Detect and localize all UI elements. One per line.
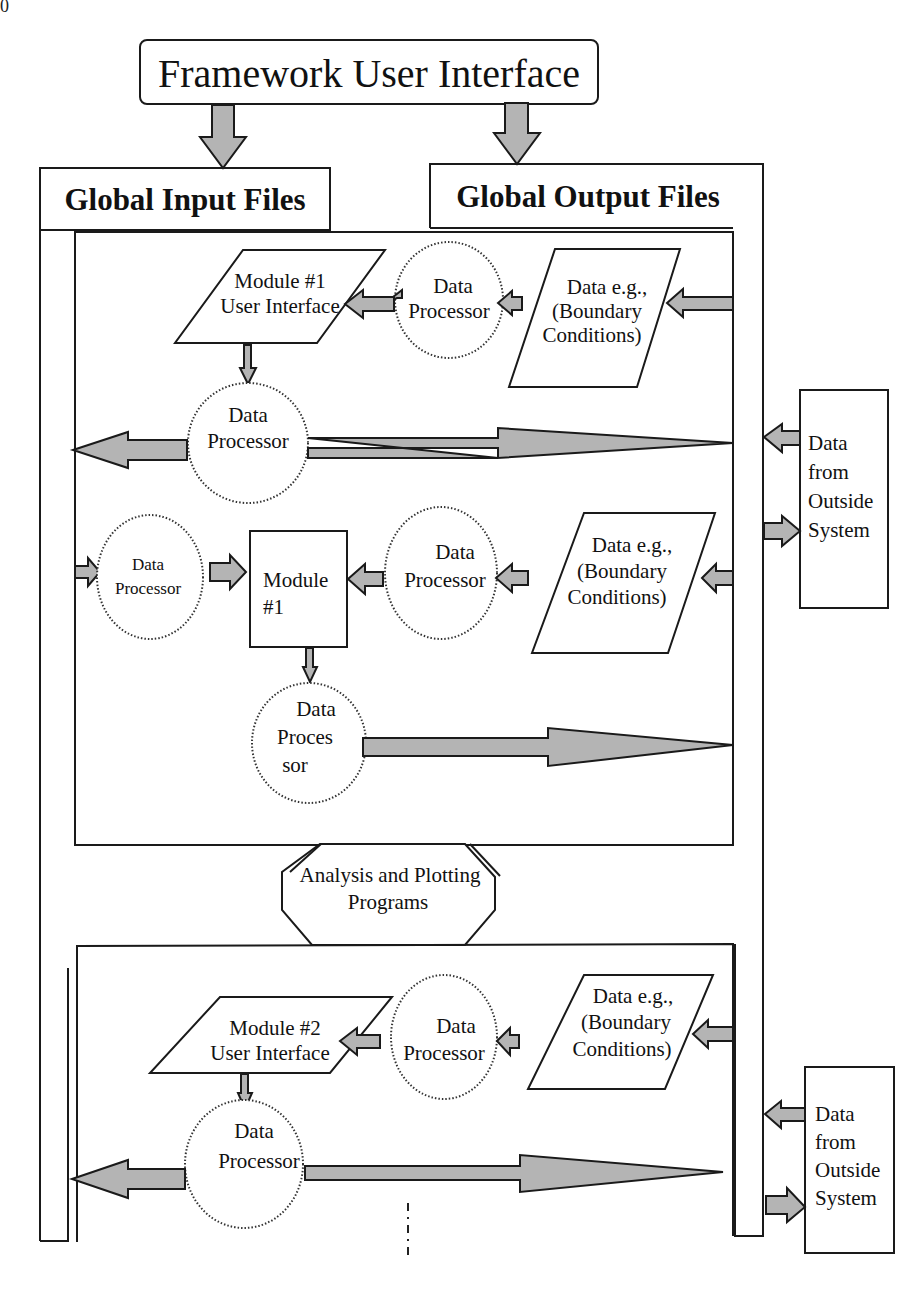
global-output-files-label: Global Output Files bbox=[456, 179, 720, 214]
svg-text:System: System bbox=[808, 518, 870, 542]
svg-text:Processor: Processor bbox=[115, 579, 181, 598]
svg-text:Data: Data bbox=[433, 274, 473, 298]
module1-data-processor-bottom: Data Proces sor bbox=[252, 683, 366, 803]
svg-text:Processor: Processor bbox=[404, 568, 486, 592]
arrow-down-icon bbox=[240, 345, 256, 384]
arrow-right-icon bbox=[764, 516, 800, 546]
arrow-left-icon bbox=[72, 1160, 185, 1198]
svg-text:Processor: Processor bbox=[207, 429, 289, 453]
arrow-left-icon bbox=[73, 432, 187, 468]
svg-text:(Boundary: (Boundary bbox=[577, 559, 667, 583]
arrow-down-icon bbox=[200, 105, 246, 168]
arrow-down-icon bbox=[494, 103, 540, 164]
svg-text:Conditions): Conditions) bbox=[572, 1037, 671, 1061]
svg-text:System: System bbox=[815, 1186, 877, 1210]
svg-text:Data: Data bbox=[815, 1102, 855, 1126]
svg-text:Conditions): Conditions) bbox=[567, 585, 666, 609]
arrow-right-icon bbox=[308, 428, 733, 458]
svg-text:from: from bbox=[815, 1130, 856, 1154]
module1-data-processor-left: Data Processor bbox=[97, 515, 203, 639]
svg-text:Data e.g.,: Data e.g., bbox=[567, 275, 647, 299]
framework-diagram: 0 Framework User Interface Global Input … bbox=[0, 0, 910, 1290]
module1-data-processor-mid: Data Processor bbox=[188, 383, 308, 503]
arrow-left-icon bbox=[693, 1020, 733, 1048]
svg-text:Data: Data bbox=[436, 1014, 476, 1038]
svg-text:(Boundary: (Boundary bbox=[581, 1010, 671, 1034]
module1-data-processor-top: Data Processor bbox=[395, 242, 503, 358]
svg-text:Conditions): Conditions) bbox=[542, 323, 641, 347]
framework-title: Framework User Interface bbox=[158, 51, 580, 96]
svg-text:Data e.g.,: Data e.g., bbox=[593, 984, 673, 1008]
svg-text:User Interface: User Interface bbox=[210, 1041, 330, 1065]
arrow-left-icon bbox=[765, 1101, 805, 1128]
page-number-fragment: 0 bbox=[0, 0, 9, 16]
svg-text:(Boundary: (Boundary bbox=[552, 299, 642, 323]
svg-text:Processor: Processor bbox=[403, 1041, 485, 1065]
arrow-right-icon bbox=[210, 555, 246, 589]
arrow-left-icon bbox=[496, 564, 528, 592]
svg-text:Module: Module bbox=[263, 568, 328, 592]
svg-text:Processor: Processor bbox=[408, 299, 490, 323]
module2-data-processor-mid: Data Processor bbox=[185, 1100, 303, 1228]
svg-text:Data: Data bbox=[435, 540, 475, 564]
svg-text:Data: Data bbox=[234, 1119, 274, 1143]
arrow-left-icon bbox=[667, 289, 733, 317]
arrow-left-icon bbox=[497, 1028, 519, 1055]
svg-text:Data: Data bbox=[132, 555, 165, 574]
framework-user-interface-box: Framework User Interface bbox=[140, 40, 598, 104]
svg-text:Data: Data bbox=[296, 697, 336, 721]
svg-text:Proces: Proces bbox=[277, 725, 333, 749]
svg-text:#1: #1 bbox=[263, 595, 284, 619]
module1-boundary-data-row2: Data e.g., (Boundary Conditions) bbox=[532, 513, 715, 653]
arrow-left-icon bbox=[348, 564, 383, 594]
arrow-right-icon bbox=[766, 1188, 805, 1222]
svg-text:from: from bbox=[808, 460, 849, 484]
svg-text:Data: Data bbox=[808, 431, 848, 455]
svg-text:Module #2: Module #2 bbox=[229, 1016, 321, 1040]
module1-outside-system-box: Data from Outside System bbox=[800, 390, 888, 608]
svg-text:Processor: Processor bbox=[218, 1149, 300, 1173]
module1-boundary-data: Data e.g., (Boundary Conditions) bbox=[509, 249, 680, 387]
svg-text:Outside: Outside bbox=[808, 489, 873, 513]
svg-text:Analysis and Plotting: Analysis and Plotting bbox=[300, 863, 481, 887]
svg-text:sor: sor bbox=[282, 753, 308, 777]
arrow-left-icon bbox=[702, 564, 733, 592]
module1-data-processor-row2: Data Processor bbox=[385, 507, 497, 639]
analysis-plotting-programs: Analysis and Plotting Programs bbox=[282, 844, 500, 945]
arrow-down-icon bbox=[303, 648, 317, 682]
svg-text:Module #1: Module #1 bbox=[234, 269, 326, 293]
svg-text:Data e.g.,: Data e.g., bbox=[592, 533, 672, 557]
arrow-right-icon bbox=[363, 728, 733, 766]
global-input-files-label: Global Input Files bbox=[64, 182, 305, 217]
module2-data-processor-top: Data Processor bbox=[391, 975, 497, 1099]
svg-text:Outside: Outside bbox=[815, 1158, 880, 1182]
module2-boundary-data: Data e.g., (Boundary Conditions) bbox=[528, 975, 713, 1089]
svg-text:Data: Data bbox=[228, 403, 268, 427]
module2-outside-system-box: Data from Outside System bbox=[805, 1067, 894, 1253]
svg-text:Programs: Programs bbox=[348, 890, 429, 914]
arrow-right-icon bbox=[305, 1155, 723, 1192]
arrow-left-icon bbox=[764, 424, 800, 452]
svg-text:User Interface: User Interface bbox=[220, 294, 340, 318]
module1-box: Module #1 bbox=[250, 531, 347, 647]
